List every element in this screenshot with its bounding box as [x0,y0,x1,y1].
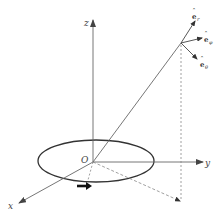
e-r-label: e ˆ r [192,7,200,22]
svg-text:r: r [197,16,200,22]
e-r-vector [181,21,195,43]
e-theta-label: e ˆ θ [200,55,208,70]
svg-text:φ: φ [209,39,213,46]
svg-text:ˆ: ˆ [205,30,208,37]
svg-text:ˆ: ˆ [193,7,196,14]
diagram-svg: z y x O e ˆ r e ˆ φ e ˆ θ [0,0,220,221]
svg-text:θ: θ [205,64,208,70]
z-axis-label: z [83,18,89,28]
x-axis [19,162,93,203]
e-theta-vector [181,43,197,59]
x-axis-label: x [8,201,13,211]
xy-plane-circle [38,140,154,182]
svg-text:ˆ: ˆ [201,55,204,62]
y-axis-label: y [204,158,211,168]
radius-line [93,43,181,162]
spherical-coordinates-diagram: z y x O e ˆ r e ˆ φ e ˆ θ [0,0,220,221]
origin-label: O [81,155,89,165]
e-phi-label: e ˆ φ [204,30,213,46]
